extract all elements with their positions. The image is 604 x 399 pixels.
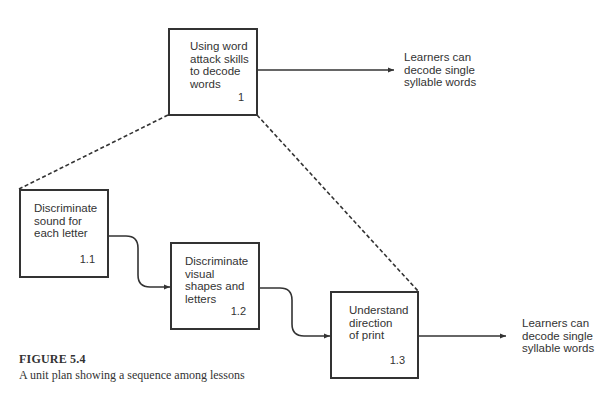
dashed-line-1-to-1-1	[19, 115, 168, 189]
lesson-number: 1.1	[80, 253, 95, 265]
figure-description: A unit plan showing a sequence among les…	[19, 368, 245, 383]
outcome-bottom: Learners can decode single syllable word…	[522, 317, 594, 355]
figure-caption: FIGURE 5.4 A unit plan showing a sequenc…	[19, 352, 245, 383]
figure-title: FIGURE 5.4	[19, 352, 245, 367]
lesson-number: 1	[238, 91, 244, 103]
arrow-1-2-to-1-3	[259, 288, 330, 336]
lesson-box-1-1: Discriminate sound for each letter 1.1	[19, 189, 109, 278]
arrow-1-1-to-1-2	[108, 236, 170, 287]
lesson-label: Understand direction of print	[349, 304, 408, 342]
lesson-label: Discriminate sound for each letter	[34, 202, 97, 240]
lesson-label: Discriminate visual shapes and letters	[185, 255, 248, 305]
outcome-top: Learners can decode single syllable word…	[404, 51, 476, 89]
lesson-label: Using word attack skills to decode words	[190, 40, 249, 90]
lesson-number: 1.2	[231, 305, 246, 317]
lesson-box-1-2: Discriminate visual shapes and letters 1…	[170, 242, 260, 330]
lesson-number: 1.3	[390, 354, 405, 366]
lesson-box-1-3: Understand direction of print 1.3	[330, 291, 419, 379]
dashed-line-1-to-1-3	[257, 115, 418, 291]
lesson-box-1: Using word attack skills to decode words…	[168, 28, 258, 116]
